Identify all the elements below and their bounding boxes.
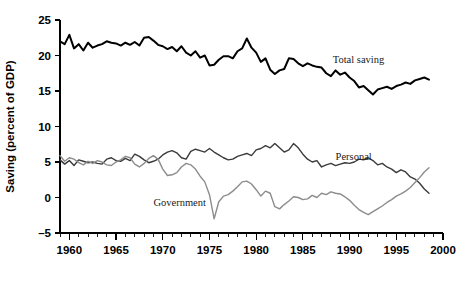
series-line-government	[60, 156, 429, 219]
x-tick-label: 2000	[430, 244, 456, 256]
y-tick-label: –5	[38, 227, 51, 239]
x-tick-label: 1960	[57, 244, 83, 256]
y-axis-group: –50510152025	[38, 14, 60, 239]
y-tick-label: 15	[38, 85, 51, 97]
savings-chart: –50510152025 196019651970197519801985199…	[0, 0, 470, 284]
x-tick-label: 1980	[243, 244, 269, 256]
y-axis-ticks	[55, 20, 60, 233]
series-label-government: Government	[153, 197, 206, 208]
x-axis-tick-labels: 196019651970197519801985199019952000	[57, 244, 456, 256]
x-tick-label: 1975	[197, 244, 223, 256]
x-tick-label: 1995	[383, 244, 409, 256]
x-tick-label: 1985	[290, 244, 316, 256]
y-axis-tick-labels: –50510152025	[38, 14, 51, 239]
y-tick-label: 5	[45, 156, 52, 168]
series-label-total-saving: Total saving	[333, 54, 385, 65]
y-tick-label: 0	[45, 192, 51, 204]
x-tick-label: 1965	[103, 244, 129, 256]
y-tick-label: 20	[38, 50, 51, 62]
series-line-personal	[60, 144, 429, 194]
x-axis-group: 196019651970197519801985199019952000	[57, 233, 456, 256]
y-axis-title-group: Saving (percent of GDP)	[4, 60, 16, 192]
x-tick-label: 1970	[150, 244, 176, 256]
y-tick-label: 10	[38, 121, 51, 133]
x-tick-label: 1990	[337, 244, 363, 256]
series-label-personal: Personal	[336, 151, 372, 162]
y-tick-label: 25	[38, 14, 51, 26]
series-line-total-saving	[60, 35, 429, 95]
chart-canvas: –50510152025 196019651970197519801985199…	[0, 0, 470, 284]
y-axis-title: Saving (percent of GDP)	[4, 60, 16, 192]
